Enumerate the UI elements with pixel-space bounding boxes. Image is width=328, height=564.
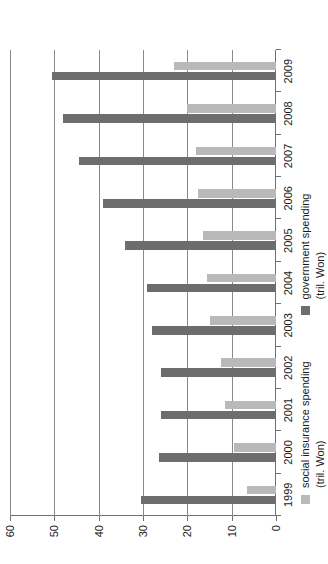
category-axis-label: 1999 [282,483,294,507]
value-axis-tick [143,516,144,521]
category-axis-label: 2008 [282,101,294,125]
bar-social-insurance-spending [198,189,276,198]
bar-social-insurance-spending [221,359,276,368]
bar-social-insurance-spending [203,231,276,240]
category-axis-tick [276,134,281,135]
category-axis-tick [276,430,281,431]
category-axis-tick [276,473,281,474]
bar-social-insurance-spending [174,62,276,71]
category-axis-label: 2004 [282,271,294,295]
bar-group: 2003 [10,304,276,346]
value-axis-label: 0 [270,525,282,531]
category-axis-label: 2006 [282,186,294,210]
bar-social-insurance-spending [196,147,276,156]
bar-group: 2000 [10,431,276,473]
bar-government-spending [52,72,276,81]
bar-group: 2005 [10,219,276,261]
bar-group: 1999 [10,474,276,516]
bar-social-insurance-spending [207,274,276,283]
plot-area: 0102030405060 19992000200120022003200420… [10,50,276,516]
bar-social-insurance-spending [225,401,276,410]
bar-government-spending [161,369,276,378]
category-axis-tick [276,218,281,219]
value-axis-label: 40 [93,525,105,537]
value-axis-tick [10,516,11,521]
bar-social-insurance-spending [210,316,277,325]
category-axis-label: 2002 [282,356,294,380]
bar-group: 2001 [10,389,276,431]
category-axis-label: 2001 [282,398,294,422]
legend-item-social-insurance: social insurance spending (tril. Won) [298,361,328,504]
category-axis-label: 2007 [282,144,294,168]
category-axis-label: 2005 [282,228,294,252]
bar-government-spending [103,199,276,208]
bar-social-insurance-spending [187,104,276,113]
bar-group: 2008 [10,92,276,134]
bar-social-insurance-spending [247,486,276,495]
legend-label-social-insurance-line1: social insurance spending [299,361,311,488]
value-axis-tick [54,516,55,521]
value-axis-tick [276,516,277,521]
value-axis-tick [99,516,100,521]
bar-government-spending [63,114,276,123]
legend-label-government-line2: (tril. Won) [313,194,328,300]
bar-government-spending [159,453,276,462]
bar-social-insurance-spending [234,443,276,452]
category-axis-label: 2000 [282,440,294,464]
value-axis-tick [232,516,233,521]
value-axis-label: 60 [4,525,16,537]
bar-group: 2006 [10,177,276,219]
value-axis-label: 20 [181,525,193,537]
category-axis-tick [276,176,281,177]
category-axis-tick [276,261,281,262]
legend-swatch-social-insurance-icon [301,495,310,504]
bar-government-spending [152,326,276,335]
bar-group: 2007 [10,135,276,177]
category-axis-tick [276,388,281,389]
value-axis-label: 50 [48,525,60,537]
bar-government-spending [125,241,276,250]
bar-group: 2009 [10,50,276,92]
category-axis-tick [276,346,281,347]
legend-label-government: government spending (tril. Won) [298,194,328,300]
legend-item-government: government spending (tril. Won) [298,194,328,316]
category-axis-tick [276,515,281,516]
legend-label-social-insurance-line2: (tril. Won) [313,361,328,488]
value-axis-tick [187,516,188,521]
bar-government-spending [79,157,276,166]
category-axis-tick [276,91,281,92]
bar-government-spending [161,411,276,420]
category-axis-label: 2003 [282,313,294,337]
bar-government-spending [141,496,276,505]
legend-swatch-government-icon [301,306,310,315]
legend-label-government-line1: government spending [299,194,311,300]
category-axis-tick-end [276,49,281,50]
legend-label-social-insurance: social insurance spending (tril. Won) [298,361,328,488]
value-axis-label: 10 [226,525,238,537]
bar-group: 2004 [10,262,276,304]
bar-government-spending [147,284,276,293]
value-axis-label: 30 [137,525,149,537]
bars-layer: 1999200020012002200320042005200620072008… [10,50,276,516]
category-axis-tick [276,303,281,304]
chart-legend: social insurance spending (tril. Won) go… [298,194,328,504]
category-axis-label: 2009 [282,59,294,83]
bar-group: 2002 [10,347,276,389]
